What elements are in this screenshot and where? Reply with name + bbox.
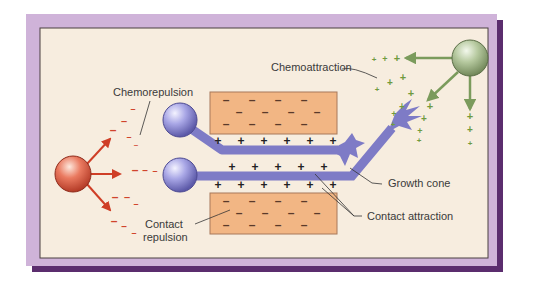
minus-charge: – bbox=[275, 117, 282, 131]
label-contact-repulsion-line1: Contact bbox=[145, 218, 183, 230]
axon-guidance-diagram: –––––––––––––––––––––––– +++++++++++++++… bbox=[0, 0, 534, 288]
attractant-molecule: + bbox=[467, 124, 473, 135]
plus-charge: + bbox=[320, 160, 327, 174]
plus-charge: + bbox=[297, 160, 304, 174]
plus-charge: + bbox=[283, 178, 290, 192]
repellent-molecule: – bbox=[130, 104, 135, 114]
attractant-molecule: + bbox=[417, 126, 422, 136]
plus-charge: + bbox=[237, 134, 244, 148]
plus-charge: + bbox=[214, 134, 221, 148]
repellent-molecule: – bbox=[132, 163, 139, 177]
attractant-molecule: + bbox=[391, 109, 396, 119]
label-growth-cone: Growth cone bbox=[388, 177, 450, 189]
minus-charge: – bbox=[275, 194, 282, 208]
repellent-molecule: – bbox=[112, 190, 119, 204]
repellent-molecule: – bbox=[152, 166, 157, 176]
minus-charge: – bbox=[223, 218, 230, 232]
repellent-molecule: – bbox=[121, 115, 127, 127]
label-chemoattraction: Chemoattraction bbox=[271, 61, 352, 73]
minus-charge: – bbox=[249, 194, 256, 208]
minus-charge: – bbox=[223, 93, 230, 107]
minus-charge: – bbox=[314, 206, 321, 220]
minus-charge: – bbox=[301, 117, 308, 131]
repellent-molecule: – bbox=[133, 199, 138, 209]
repellent-molecule: – bbox=[131, 228, 136, 238]
plus-charge: + bbox=[260, 178, 267, 192]
neuron-cell-body-lower bbox=[163, 158, 197, 192]
neuron-cell-body-upper bbox=[163, 103, 197, 137]
minus-charge: – bbox=[236, 105, 243, 119]
attractant-molecule: + bbox=[467, 110, 473, 122]
minus-charge: – bbox=[262, 206, 269, 220]
attractant-molecule: + bbox=[468, 139, 473, 148]
repellent-molecule: – bbox=[121, 221, 127, 232]
plus-charge: + bbox=[237, 178, 244, 192]
attractant-molecule: + bbox=[399, 101, 405, 112]
minus-charge: – bbox=[288, 105, 295, 119]
minus-charge: – bbox=[301, 194, 308, 208]
minus-charge: – bbox=[223, 194, 230, 208]
plus-charge: + bbox=[228, 160, 235, 174]
repellent-molecule: – bbox=[110, 123, 117, 137]
minus-charge: – bbox=[288, 206, 295, 220]
plus-charge: + bbox=[306, 134, 313, 148]
minus-charge: – bbox=[236, 206, 243, 220]
plus-charge: + bbox=[251, 160, 258, 174]
plus-charge: + bbox=[214, 178, 221, 192]
plus-charge: + bbox=[329, 134, 336, 148]
minus-charge: – bbox=[262, 105, 269, 119]
attractant-molecule: + bbox=[400, 71, 406, 83]
minus-charge: – bbox=[275, 93, 282, 107]
minus-charge: – bbox=[314, 105, 321, 119]
attractant-molecule: + bbox=[391, 120, 396, 129]
attractant-molecule: + bbox=[382, 54, 387, 64]
repellent-molecule: – bbox=[134, 140, 139, 149]
minus-charge: – bbox=[249, 117, 256, 131]
plus-charge: + bbox=[329, 178, 336, 192]
minus-charge: – bbox=[249, 218, 256, 232]
plus-charge: + bbox=[274, 160, 281, 174]
minus-charge: – bbox=[249, 93, 256, 107]
label-chemorepulsion: Chemorepulsion bbox=[113, 86, 193, 98]
plus-charge: + bbox=[283, 134, 290, 148]
attractant-cell-body bbox=[452, 40, 488, 76]
minus-charge: – bbox=[301, 218, 308, 232]
label-contact-repulsion-line2: repulsion bbox=[143, 231, 188, 243]
label-contact-attraction: Contact attraction bbox=[367, 210, 453, 222]
attractant-molecule: + bbox=[375, 85, 380, 94]
attractant-molecule: + bbox=[394, 52, 400, 64]
plus-charge: + bbox=[260, 134, 267, 148]
attractant-molecule: + bbox=[372, 55, 377, 64]
attractant-molecule: + bbox=[387, 77, 393, 88]
minus-charge: – bbox=[275, 218, 282, 232]
attractant-molecule: + bbox=[427, 100, 433, 112]
repellent-molecule: – bbox=[126, 132, 131, 142]
minus-charge: – bbox=[301, 93, 308, 107]
repellent-molecule: – bbox=[142, 165, 148, 176]
repellent-molecule: – bbox=[111, 214, 118, 228]
attractant-molecule: + bbox=[421, 113, 427, 124]
repellent-cell-body bbox=[55, 156, 91, 192]
repellent-molecule: – bbox=[124, 191, 130, 203]
plus-charge: + bbox=[306, 178, 313, 192]
minus-charge: – bbox=[223, 117, 230, 131]
attractant-molecule: + bbox=[417, 136, 422, 145]
attractant-molecule: + bbox=[408, 87, 414, 99]
